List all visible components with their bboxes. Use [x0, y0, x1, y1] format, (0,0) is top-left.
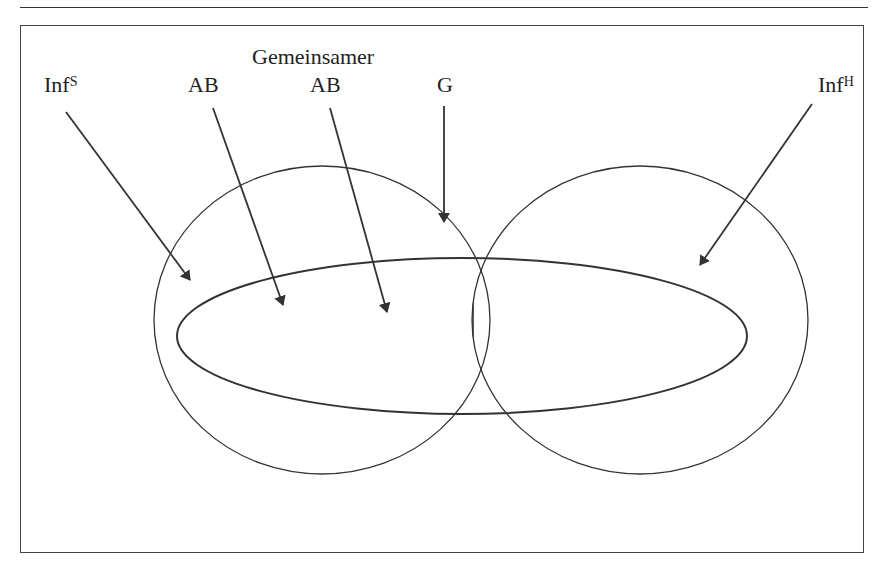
- label-inf-h: InfH: [818, 74, 854, 96]
- arrow-inf-h: [700, 104, 812, 265]
- arrow-inf-s: [66, 112, 190, 280]
- label-ab-left: AB: [188, 74, 219, 96]
- label-g: G: [437, 74, 453, 96]
- label-ab-common: AB: [310, 74, 341, 96]
- ellipse-inf-s: [154, 166, 490, 474]
- label-inf-s: InfS: [44, 74, 77, 96]
- label-gemeinsamer: Gemeinsamer: [252, 46, 374, 68]
- ellipse-inf-h: [472, 166, 808, 474]
- ellipse-ab: [177, 258, 747, 414]
- arrow-ab-common: [330, 108, 387, 312]
- arrow-ab-left: [213, 108, 283, 305]
- common-ground-hatch: [385, 160, 578, 480]
